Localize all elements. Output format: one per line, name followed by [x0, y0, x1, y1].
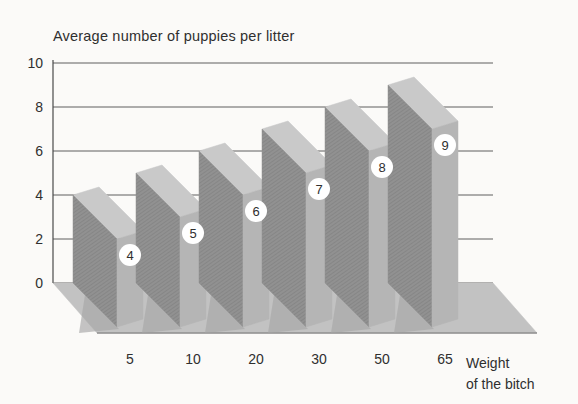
bar-value-label: 7	[315, 182, 322, 197]
y-tick-label-10: 10	[27, 55, 43, 71]
x-tick-label-50: 50	[374, 351, 390, 367]
bar-value-label: 4	[126, 248, 133, 263]
y-tick-label-4: 4	[35, 187, 43, 203]
bar-value-label: 5	[189, 226, 196, 241]
x-tick-label-30: 30	[311, 351, 327, 367]
y-tick-label-8: 8	[35, 99, 43, 115]
x-tick-label-65: 65	[437, 351, 453, 367]
y-tick-label-6: 6	[35, 143, 43, 159]
chart-canvas: 456789024681051020305065Weightof the bit…	[0, 0, 578, 404]
bar-value-label: 8	[378, 160, 385, 175]
y-tick-label-0: 0	[35, 275, 43, 291]
bar-value-label: 9	[441, 138, 448, 153]
x-axis-caption-line2: of the bitch	[466, 376, 535, 392]
x-axis-caption-line1: Weight	[466, 355, 509, 371]
x-tick-label-5: 5	[126, 351, 134, 367]
x-tick-label-20: 20	[248, 351, 264, 367]
chart-title: Average number of puppies per litter	[53, 28, 295, 44]
bar-value-label: 6	[252, 204, 259, 219]
y-tick-label-2: 2	[35, 231, 43, 247]
x-tick-label-10: 10	[185, 351, 201, 367]
puppies-per-litter-figure: 456789024681051020305065Weightof the bit…	[0, 0, 578, 404]
